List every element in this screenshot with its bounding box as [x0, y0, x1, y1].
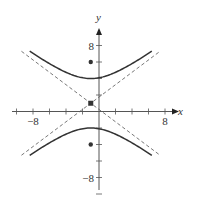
key-points	[88, 60, 93, 147]
y-axis-arrow-icon	[96, 28, 102, 35]
center-point	[88, 101, 93, 106]
upper-branch	[30, 51, 152, 78]
y-tick-label: 8	[89, 40, 95, 52]
focus-lower-point	[89, 142, 93, 146]
axis-labels: x y −888−8	[27, 11, 183, 184]
y-axis-label: y	[95, 11, 101, 23]
x-tick-label: −8	[27, 115, 39, 127]
focus-upper-point	[89, 60, 93, 64]
coordinate-axes	[12, 28, 179, 194]
x-tick-label: 8	[162, 115, 168, 127]
y-tick-label: −8	[82, 172, 94, 184]
x-axis-label: x	[177, 105, 183, 117]
lower-branch	[30, 128, 152, 155]
hyperbola-plot: x y −888−8	[0, 0, 198, 198]
